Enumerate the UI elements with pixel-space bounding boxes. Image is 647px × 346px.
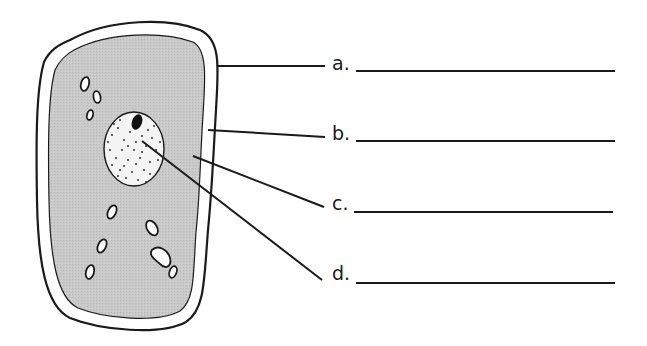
label-a: a. <box>332 54 350 73</box>
label-b: b. <box>332 124 350 143</box>
answer-blank-b[interactable] <box>356 140 615 142</box>
answer-blank-c[interactable] <box>354 211 613 213</box>
label-c: c. <box>332 194 349 213</box>
plant-cell-diagram <box>0 0 647 346</box>
label-d: d. <box>332 264 350 283</box>
leader-line-b <box>208 130 325 137</box>
answer-blank-a[interactable] <box>356 70 615 72</box>
answer-blank-d[interactable] <box>356 282 615 284</box>
